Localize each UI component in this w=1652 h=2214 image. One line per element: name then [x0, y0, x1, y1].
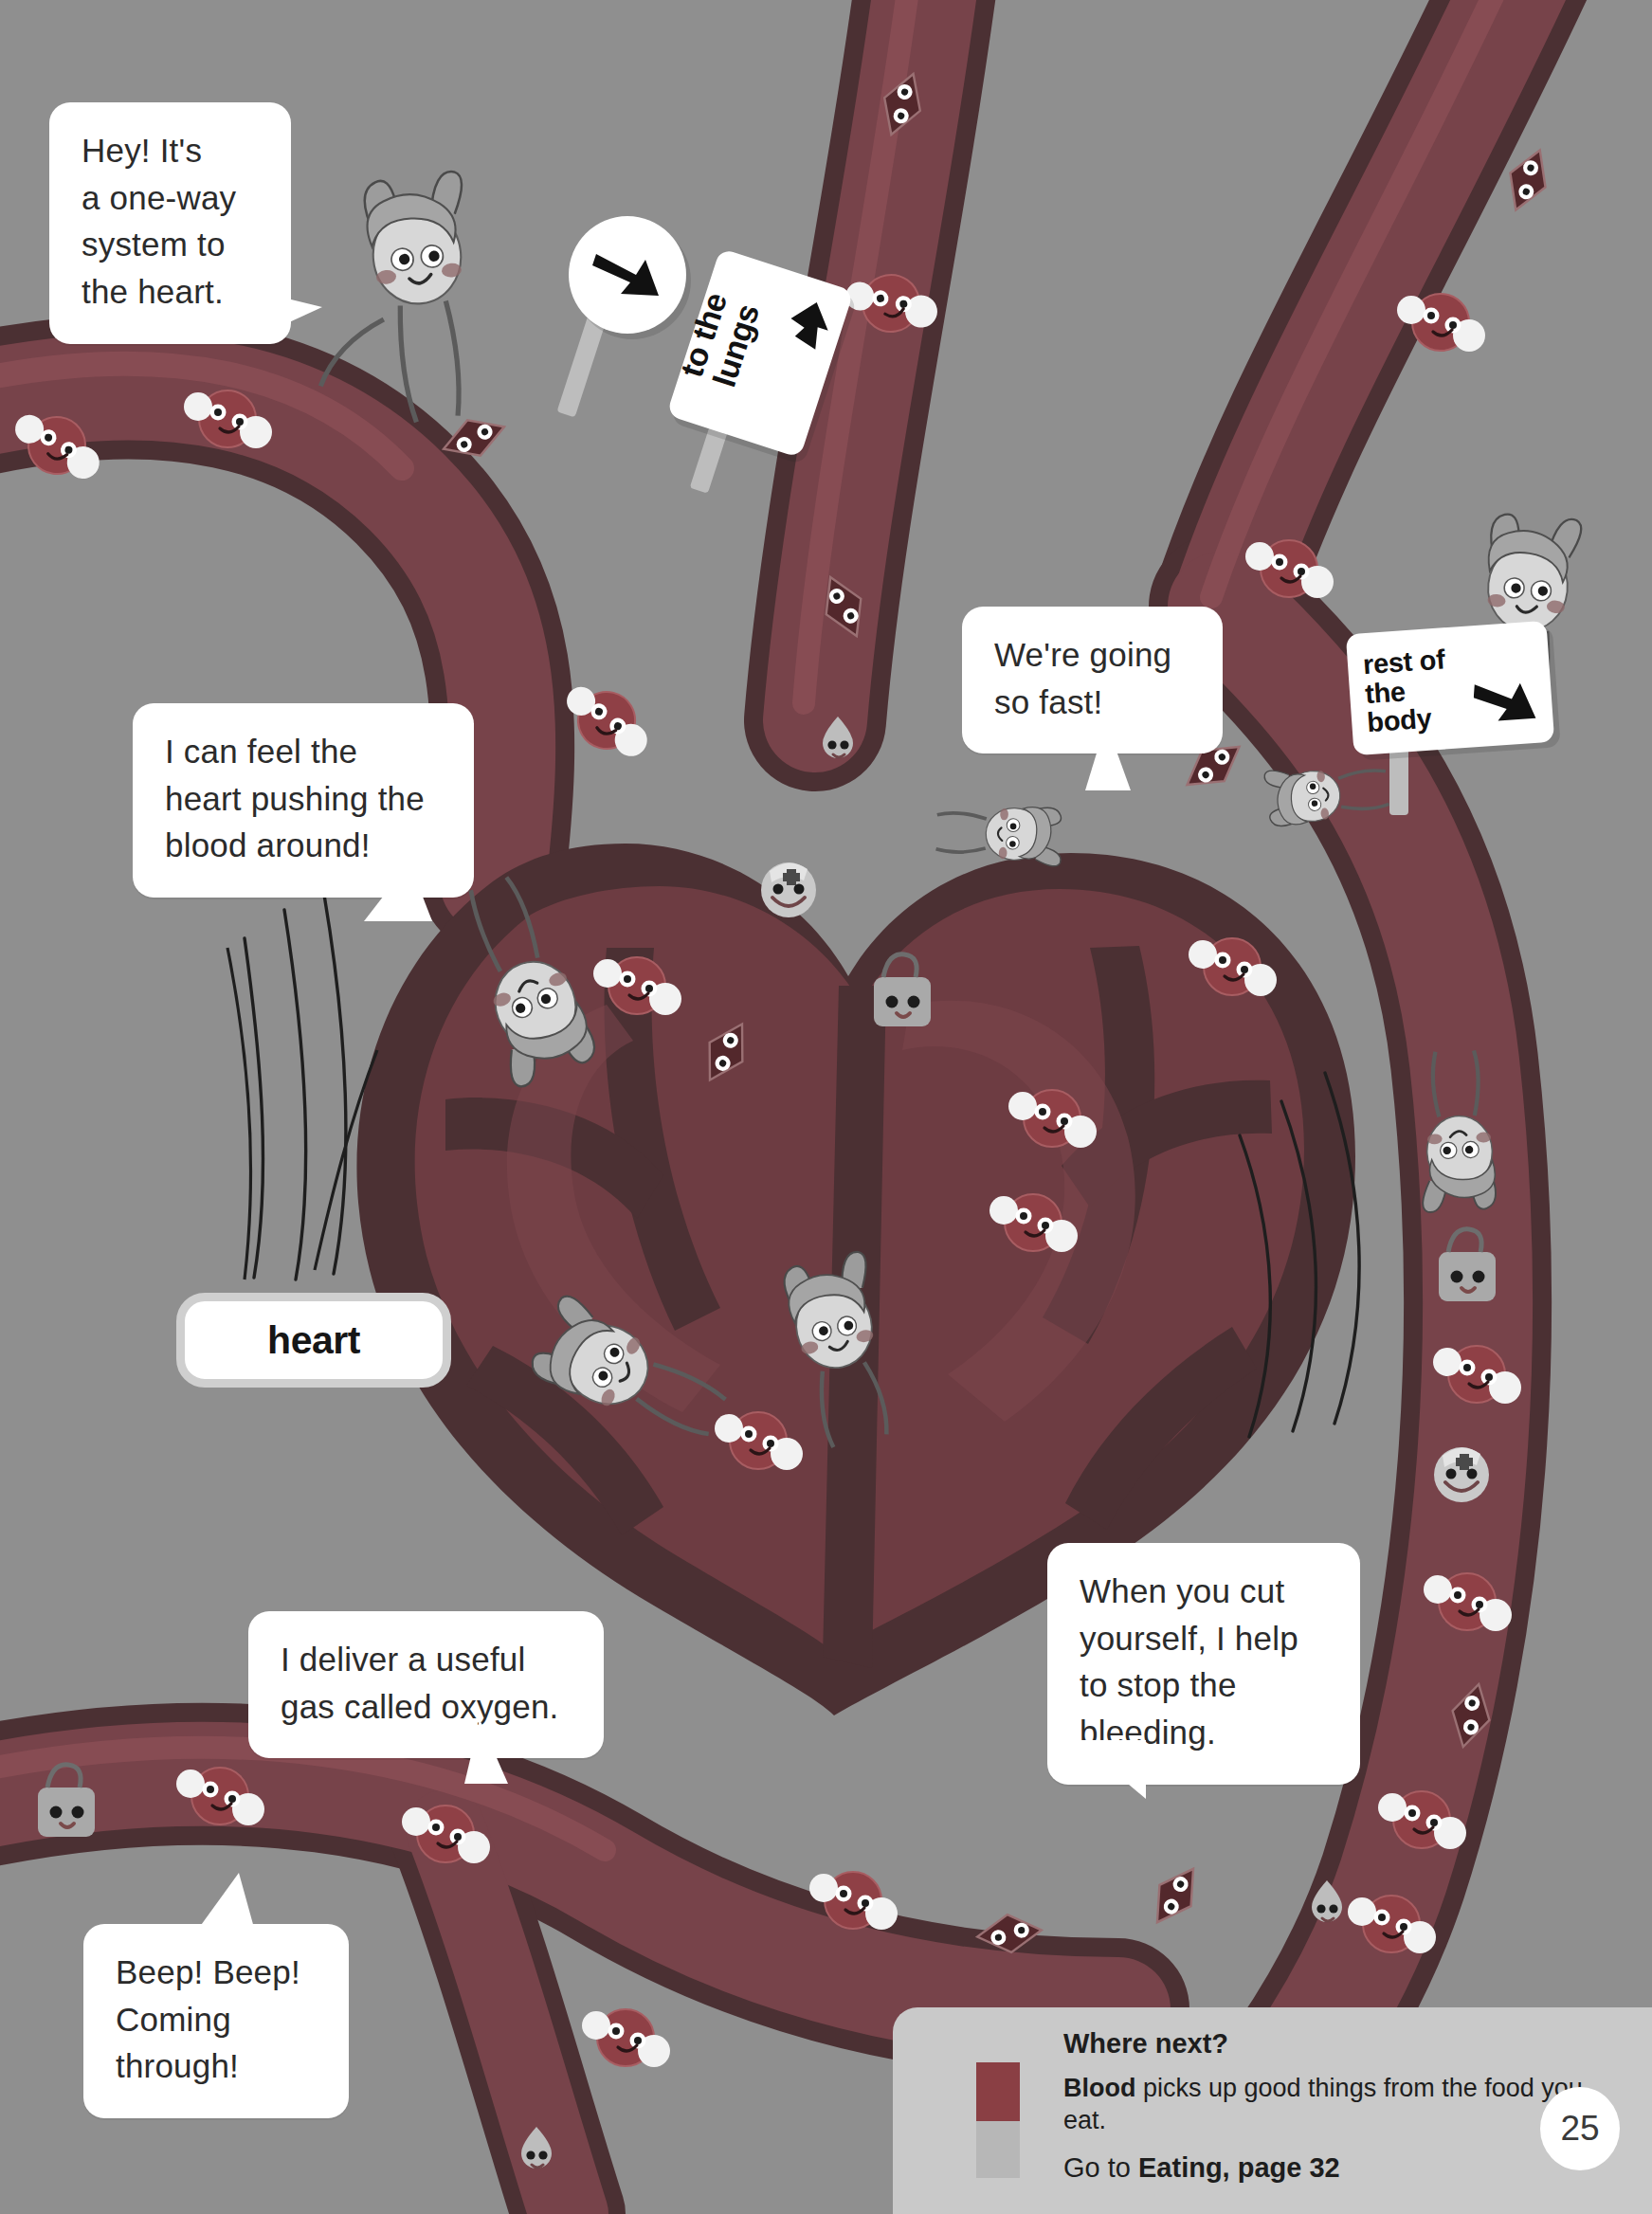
- speech-bubble-so-fast: We're going so fast!: [962, 607, 1223, 753]
- where-next-goto-prefix: Go to: [1063, 2152, 1138, 2183]
- page-number: 25: [1540, 2087, 1620, 2170]
- speech-bubble-tail: [252, 290, 322, 339]
- where-next-goto[interactable]: Go to Eating, page 32: [1063, 2152, 1627, 2184]
- sign-rest-of-the-body-label: rest of the body: [1362, 645, 1450, 737]
- speech-bubble-beep: Beep! Beep! Coming through!: [83, 1924, 349, 2118]
- speech-bubble-heart-push: I can feel the heart pushing the blood a…: [133, 703, 474, 898]
- speech-bubble-tail: [1076, 1740, 1146, 1799]
- speech-bubble-oxygen-text: I deliver a useful gas called oxygen.: [281, 1636, 575, 1730]
- where-next-panel: Where next? Blood picks up good things f…: [893, 2007, 1652, 2214]
- swatch-secondary-color: [976, 2121, 1020, 2178]
- up-arrow-icon: [781, 291, 838, 356]
- speech-bubble-tail: [464, 1719, 508, 1784]
- where-next-body-bold: Blood: [1063, 2074, 1135, 2102]
- speech-bubble-heart-push-text: I can feel the heart pushing the blood a…: [165, 728, 445, 869]
- where-next-body-rest: picks up good things from the food you e…: [1063, 2074, 1583, 2134]
- speech-bubble-tail: [364, 862, 432, 921]
- sign-rest-of-the-body[interactable]: rest of the body: [1346, 621, 1554, 755]
- speech-bubble-tail: [199, 1873, 254, 1928]
- where-next-title: Where next?: [1063, 2028, 1627, 2060]
- speech-bubble-so-fast-text: We're going so fast!: [994, 631, 1194, 725]
- speech-bubble-bleeding: When you cut yourself, I help to stop th…: [1047, 1543, 1360, 1785]
- round-arrow-sign[interactable]: [569, 216, 686, 334]
- speech-bubble-oxygen: I deliver a useful gas called oxygen.: [248, 1611, 604, 1758]
- speech-bubble-bleeding-text: When you cut yourself, I help to stop th…: [1080, 1568, 1332, 1756]
- speech-bubble-one-way-text: Hey! It's a one-way system to the heart.: [82, 127, 263, 316]
- illustrated-book-page: Hey! It's a one-way system to the heart.…: [0, 0, 1652, 2214]
- label-heart: heart: [176, 1293, 451, 1388]
- speech-bubble-tail: [1085, 722, 1131, 790]
- down-right-arrow-icon: [592, 246, 663, 303]
- color-swatch: [976, 2062, 1020, 2178]
- speech-bubble-one-way: Hey! It's a one-way system to the heart.: [49, 102, 291, 344]
- where-next-goto-target: Eating, page 32: [1138, 2152, 1340, 2183]
- down-right-arrow-icon: [1472, 675, 1538, 730]
- label-heart-text: heart: [267, 1318, 360, 1363]
- speech-bubble-beep-text: Beep! Beep! Coming through!: [116, 1949, 320, 2090]
- swatch-blood-color: [976, 2062, 1020, 2121]
